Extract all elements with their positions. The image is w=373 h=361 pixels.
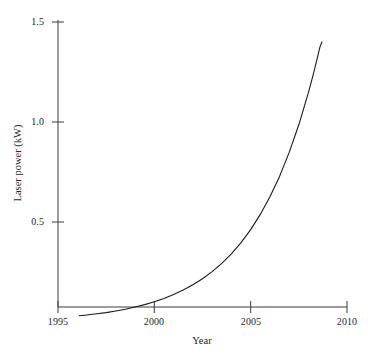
y-tick-label-1.5: 1.5 [20, 16, 44, 27]
x-tick-label-2000: 2000 [134, 316, 174, 327]
plot-area [0, 0, 373, 361]
x-tick-label-2010: 2010 [327, 316, 367, 327]
data-series-laser-power [79, 42, 322, 316]
chart-figure: 1.5 1.0 0.5 1995 2000 2005 2010 Year Las… [0, 0, 373, 361]
x-tick-label-1995: 1995 [38, 316, 78, 327]
x-tick-label-2005: 2005 [231, 316, 271, 327]
y-axis-title: Laser power (kW) [12, 108, 24, 218]
x-axis-title: Year [162, 335, 242, 347]
